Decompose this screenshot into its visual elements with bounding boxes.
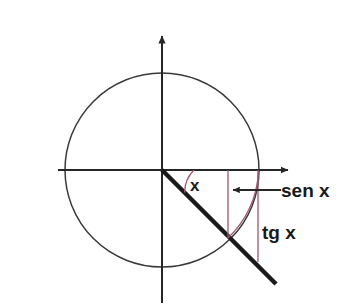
sine-label: sen x — [281, 180, 330, 201]
tangent-connector-arc — [228, 171, 259, 238]
trigonometry-figure: x sen x tg x — [0, 0, 343, 307]
radius-line — [162, 170, 276, 284]
unit-circle-diagram-canvas: x sen x tg x — [0, 0, 343, 307]
angle-label: x — [190, 176, 200, 195]
tangent-label: tg x — [262, 222, 296, 243]
